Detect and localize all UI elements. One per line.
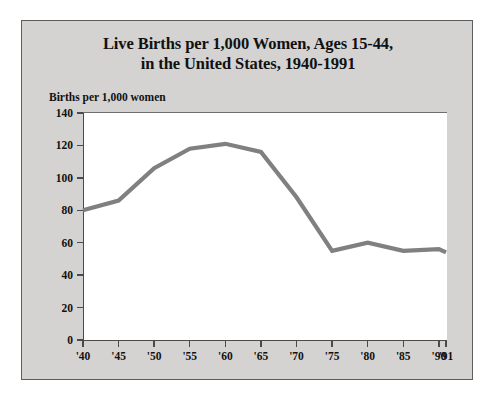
x-tick-label-45: '45 xyxy=(111,350,126,362)
x-tick-mark-55 xyxy=(189,341,190,347)
x-tick-mark-50 xyxy=(153,341,154,347)
y-tick-label-20: 20 xyxy=(21,302,73,314)
x-tick-mark-85 xyxy=(403,341,404,347)
x-tick-mark-40 xyxy=(82,341,83,347)
plot-wrapper: 020406080100120140 '40'45'50'55'60'65'70… xyxy=(22,21,474,381)
x-tick-mark-60 xyxy=(225,341,226,347)
x-tick-label-70: '70 xyxy=(289,350,304,362)
y-tick-label-0: 0 xyxy=(21,334,73,346)
x-tick-label-55: '55 xyxy=(182,350,197,362)
x-tick-mark-65 xyxy=(260,341,261,347)
y-tick-label-100: 100 xyxy=(21,172,73,184)
x-tick-mark-70 xyxy=(296,341,297,347)
data-line-chart xyxy=(83,113,447,341)
x-tick-label-60: '60 xyxy=(218,350,233,362)
x-tick-mark-90 xyxy=(438,341,439,347)
x-tick-label-65: '65 xyxy=(254,350,269,362)
series-line-live-births xyxy=(83,144,446,253)
y-tick-label-60: 60 xyxy=(21,237,73,249)
chart-panel: Live Births per 1,000 Women, Ages 15-44,… xyxy=(21,20,473,380)
x-tick-mark-80 xyxy=(367,341,368,347)
y-tick-label-40: 40 xyxy=(21,269,73,281)
x-tick-label-40: '40 xyxy=(76,350,91,362)
x-tick-mark-45 xyxy=(118,341,119,347)
x-tick-mark-91 xyxy=(445,341,446,347)
x-tick-label-85: '85 xyxy=(396,350,411,362)
y-tick-label-80: 80 xyxy=(21,204,73,216)
y-tick-label-120: 120 xyxy=(21,139,73,151)
x-tick-label-75: '75 xyxy=(325,350,340,362)
x-tick-label-80: '80 xyxy=(360,350,375,362)
x-tick-label-50: '50 xyxy=(147,350,162,362)
x-tick-mark-75 xyxy=(331,341,332,347)
x-tick-label-91: '91 xyxy=(439,350,454,362)
y-tick-label-140: 140 xyxy=(21,107,73,119)
chart-figure: Live Births per 1,000 Women, Ages 15-44,… xyxy=(0,0,496,405)
